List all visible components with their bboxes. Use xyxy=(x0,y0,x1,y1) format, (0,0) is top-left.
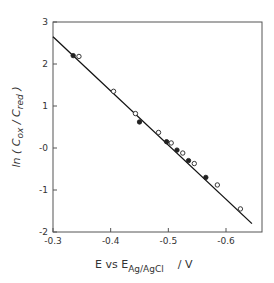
x-tick-label: -0.6 xyxy=(217,236,235,246)
y-axis: 321-0-1-2 xyxy=(39,17,57,237)
open-data-point xyxy=(156,130,160,134)
x-tick-label: -0.3 xyxy=(44,236,62,246)
open-data-point xyxy=(192,161,196,165)
y-tick-label: 1 xyxy=(42,101,48,111)
filled-data-point xyxy=(71,53,75,57)
filled-data-point xyxy=(204,175,208,179)
open-data-point xyxy=(133,111,137,115)
y-tick-label: -1 xyxy=(39,185,48,195)
x-axis-title: E vs EAg/AgCl/ V xyxy=(95,258,193,274)
chart: 321-0-1-2 -0.3-0.4-0.5-0.6 E vs EAg/AgCl… xyxy=(0,0,274,283)
y-axis-title: ln ( Cox / Cred ) xyxy=(10,87,25,168)
open-data-point xyxy=(238,207,242,211)
open-data-point xyxy=(215,183,219,187)
y-tick-label: 2 xyxy=(42,59,48,69)
plot-frame xyxy=(53,22,262,232)
open-data-point xyxy=(169,141,173,145)
open-data-point xyxy=(77,54,81,58)
y-tick-label: 3 xyxy=(42,17,48,27)
open-data-point xyxy=(181,151,185,155)
x-tick-label: -0.5 xyxy=(160,236,178,246)
filled-data-point xyxy=(175,148,179,152)
x-tick-label: -0.4 xyxy=(102,236,120,246)
x-axis: -0.3-0.4-0.5-0.6 xyxy=(44,228,235,246)
filled-data-point xyxy=(137,120,141,124)
filled-data-point xyxy=(164,140,168,144)
y-tick-label: -0 xyxy=(39,143,48,153)
data-series xyxy=(53,37,252,224)
open-data-point xyxy=(111,89,115,93)
fit-line xyxy=(53,37,252,224)
filled-data-point xyxy=(186,158,190,162)
